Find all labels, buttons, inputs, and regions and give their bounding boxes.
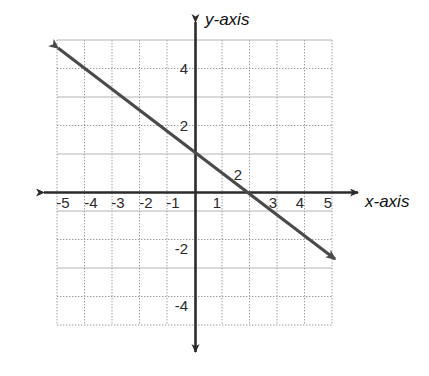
y-axis-title: y-axis xyxy=(204,10,250,29)
coordinate-plane-figure: -5 -4 -3 -2 -1 1 2 3 4 5 4 2 -2 -4 y-axi… xyxy=(0,0,429,376)
y-tick-label-2: 2 xyxy=(180,117,188,134)
x-tick-label-neg1: -1 xyxy=(166,194,179,211)
y-axis-tick-labels: 4 2 -2 -4 xyxy=(175,60,188,314)
x-tick-label-5: 5 xyxy=(324,194,332,211)
x-tick-label-neg2: -2 xyxy=(139,194,152,211)
y-tick-label-neg4: -4 xyxy=(175,297,188,314)
y-tick-label-4: 4 xyxy=(180,60,188,77)
x-tick-label-3: 3 xyxy=(269,194,277,211)
graph-canvas: -5 -4 -3 -2 -1 1 2 3 4 5 4 2 -2 -4 y-axi… xyxy=(0,0,429,376)
x-tick-label-2: 2 xyxy=(234,166,242,183)
x-tick-label-1: 1 xyxy=(213,194,221,211)
x-tick-label-4: 4 xyxy=(296,194,304,211)
x-tick-label-neg4: -4 xyxy=(84,194,97,211)
x-tick-label-neg3: -3 xyxy=(111,194,124,211)
x-tick-label-neg5: -5 xyxy=(56,194,69,211)
x-axis-title: x-axis xyxy=(364,192,410,211)
y-tick-label-neg2: -2 xyxy=(175,240,188,257)
